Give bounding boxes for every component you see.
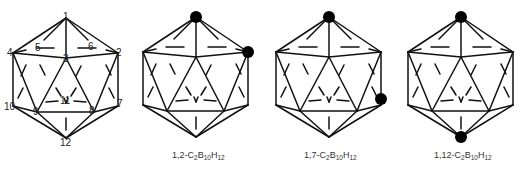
carbon-atom-1 <box>190 11 202 23</box>
carbon-atom-1 <box>323 11 335 23</box>
vertex-label-7: 7 <box>117 98 123 109</box>
vertex-label-11: 11 <box>60 95 71 106</box>
carbon-atom-1 <box>455 11 467 23</box>
vertex-label-5: 5 <box>35 42 41 53</box>
vertex-label-1: 1 <box>63 11 69 22</box>
carbon-atom-7 <box>375 93 387 105</box>
carbon-atom-12 <box>455 131 467 143</box>
vertex-label-4: 4 <box>7 47 13 58</box>
carbon-atom-2 <box>242 46 254 58</box>
vertex-label-2: 2 <box>116 47 122 58</box>
meta-carborane-structure <box>276 11 387 137</box>
vertex-label-12: 12 <box>60 137 72 148</box>
vertex-label-9: 9 <box>33 106 39 117</box>
vertex-label-3: 3 <box>63 53 69 64</box>
vertex-label-6: 6 <box>88 41 94 52</box>
vertex-label-8: 8 <box>89 105 95 116</box>
vertex-label-10: 10 <box>4 101 16 112</box>
numbered-icosahedron: 1 2 3 4 5 6 7 8 9 10 11 12 <box>4 11 123 148</box>
para-carborane-structure <box>408 11 513 143</box>
carborane-diagram: 1 2 3 4 5 6 7 8 9 10 11 12 <box>0 0 527 171</box>
caption-meta-carborane: 1,7-C2B10H12 <box>304 150 357 161</box>
caption-para-carborane: 1,12-C2B10H12 <box>434 150 492 161</box>
caption-ortho-carborane: 1,2-C2B10H12 <box>172 150 225 161</box>
ortho-carborane-structure <box>143 11 254 137</box>
